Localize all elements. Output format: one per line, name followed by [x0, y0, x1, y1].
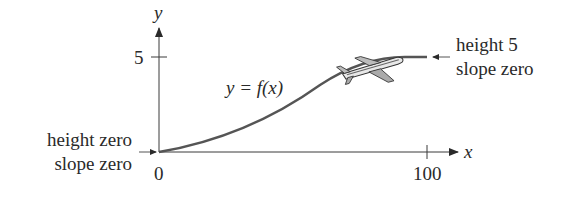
end-annotation-line2: slope zero — [456, 58, 534, 79]
start-annotation-line1: height zero — [47, 129, 132, 150]
y-axis — [151, 28, 167, 152]
end-annotation: height 5 slope zero — [433, 34, 534, 79]
x-axis — [159, 145, 458, 159]
start-annotation-line2: slope zero — [54, 153, 132, 174]
x-axis-label: x — [463, 141, 473, 162]
x-tick-label-0: 0 — [154, 163, 164, 184]
airplane-icon — [336, 46, 408, 94]
curve-f-of-x — [159, 57, 427, 152]
start-annotation: height zero slope zero — [47, 129, 156, 174]
end-annotation-line1: height 5 — [456, 34, 518, 55]
y-axis-label: y — [152, 2, 163, 23]
landing-diagram: y 5 x 0 100 y = f(x) height zero slope z… — [0, 0, 576, 204]
y-tick-label-5: 5 — [134, 47, 144, 68]
x-tick-label-100: 100 — [413, 163, 442, 184]
curve-label: y = f(x) — [224, 77, 283, 99]
